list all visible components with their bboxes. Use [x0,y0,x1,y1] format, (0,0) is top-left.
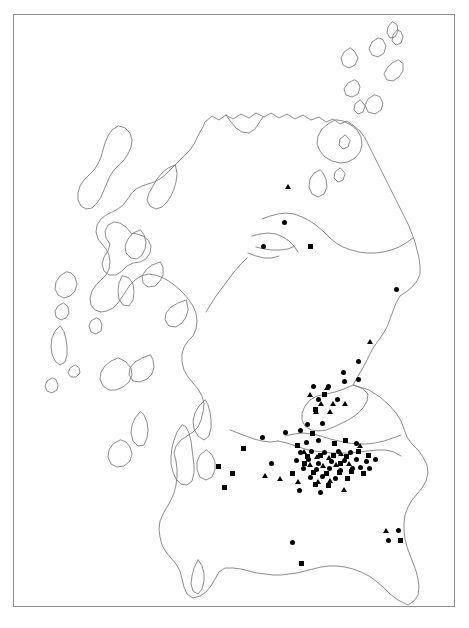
circle-marker [260,435,265,440]
isle-of-islay [108,440,132,467]
circle-marker [356,377,361,382]
triangle-marker [315,479,321,484]
square-marker [230,471,235,476]
triangle-marker [326,455,332,460]
orkney-isle-h [354,100,365,114]
circle-marker [282,220,287,225]
distribution-map-figure [0,0,469,628]
circle-marker [320,421,325,426]
dornoch-firth [252,233,298,252]
circle-marker [311,384,316,389]
triangle-marker [330,401,336,406]
circle-marker [333,476,338,481]
square-marker [326,483,331,488]
barra [45,378,58,393]
square-marker [366,453,371,458]
triangle-marker [367,339,373,344]
square-marker [337,470,342,475]
triangle-marker [301,449,307,454]
loch-inlet-c [165,300,188,327]
circle-marker [301,466,306,471]
square-marker [295,443,300,448]
square-marker [332,441,337,446]
loch-inlet-a [125,230,146,259]
circle-marker [308,475,313,480]
orkney-isle-g [339,135,350,149]
circle-marker [358,465,363,470]
triangle-marker [307,462,313,467]
orkney-hoy [309,170,327,197]
triangle-marker [285,184,291,189]
square-marker [344,454,349,459]
square-marker [356,449,361,454]
circle-marker [294,458,299,463]
circle-marker [297,488,302,493]
square-marker [398,538,403,543]
isle-of-tiree-coll [68,365,80,377]
circle-marker [269,461,274,466]
circle-marker [290,540,295,545]
circle-marker [316,438,321,443]
square-marker [216,464,221,469]
north-uist [55,272,77,298]
square-marker [299,561,304,566]
triangle-marker [327,409,333,414]
triangle-marker [307,392,313,397]
square-marker [324,471,329,476]
triangle-marker [262,473,268,478]
triangle-marker [346,461,352,466]
circle-marker [394,287,399,292]
triangle-marker [327,478,333,483]
circle-marker [373,457,378,462]
square-marker [305,454,310,459]
benbecula [55,303,69,320]
beauly-firth [248,253,279,258]
triangle-marker [314,454,320,459]
square-marker [241,446,246,451]
triangle-marker [318,401,324,406]
mull-of-galloway [191,560,204,594]
square-marker [361,471,366,476]
square-marker [349,469,354,474]
firth-of-clyde [230,430,278,442]
loch-ness-line [206,258,247,312]
orkney-isle-f [365,95,383,114]
isle-of-jura [131,412,148,446]
isle-of-mull [100,358,132,390]
square-marker [290,471,295,476]
isle-of-arran [197,450,215,480]
isle-of-lewis-harris [78,126,132,209]
square-marker [345,476,350,481]
circle-marker [367,466,372,471]
orkney-isle-a [341,48,358,68]
triangle-marker [357,443,363,448]
triangle-marker [295,479,301,484]
triangle-marker [333,462,339,467]
circle-marker [356,359,361,364]
circle-marker [261,244,266,249]
triangle-marker [342,401,348,406]
square-marker [302,461,307,466]
triangle-marker [341,487,347,492]
orkney-isle-i [334,168,345,182]
south-uist [51,326,67,365]
triangle-marker [324,385,330,390]
orkney-isle-b [369,38,386,57]
circle-marker [386,538,391,543]
circle-marker [342,379,347,384]
moray-firth [262,213,413,253]
circle-marker [304,440,309,445]
circle-marker [305,422,310,427]
circle-marker [364,459,369,464]
circle-marker [318,490,323,495]
triangle-marker [277,476,283,481]
square-marker [310,431,315,436]
scotland-coastline [0,0,469,628]
square-marker [322,392,327,397]
north-coast-detail [226,115,263,133]
firth-of-lorn [129,355,154,382]
square-marker [308,244,313,249]
orkney-isle-e [344,80,360,97]
square-marker [311,470,316,475]
circle-marker [298,428,303,433]
